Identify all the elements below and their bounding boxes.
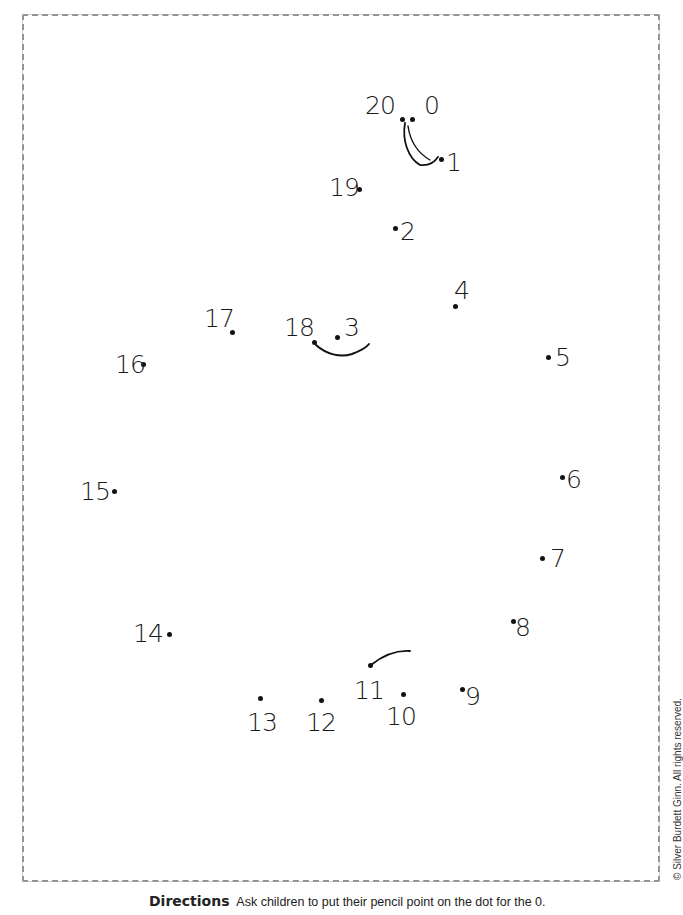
dot-11[interactable] (368, 663, 373, 668)
directions-label: Directions (149, 893, 230, 909)
dot-label-17: 17 (204, 306, 234, 331)
dot-label-5: 5 (555, 345, 570, 370)
copyright-notice: © Silver Burdett Ginn. All rights reserv… (672, 698, 683, 880)
dot-2[interactable] (393, 226, 398, 231)
dot-label-1: 1 (446, 150, 461, 175)
dot-0[interactable] (410, 117, 415, 122)
guide-strokes (0, 0, 683, 915)
dot-10[interactable] (401, 692, 406, 697)
dot-6[interactable] (560, 475, 565, 480)
dot-13[interactable] (258, 696, 263, 701)
dot-12[interactable] (319, 698, 324, 703)
chin-curve-stroke (371, 651, 410, 665)
dot-3[interactable] (335, 335, 340, 340)
ear-curve-stroke (404, 123, 438, 165)
directions: Directions Ask children to put their pen… (149, 893, 546, 909)
dot-5[interactable] (546, 355, 551, 360)
dot-label-12: 12 (306, 710, 336, 735)
dot-label-14: 14 (133, 621, 163, 646)
dot-1[interactable] (439, 157, 444, 162)
directions-text: Ask children to put their pencil point o… (236, 895, 545, 909)
dot-14[interactable] (167, 632, 172, 637)
dot-label-18: 18 (284, 315, 314, 340)
dot-label-20: 20 (365, 93, 395, 118)
dot-label-9: 9 (465, 684, 480, 709)
dot-label-0: 0 (424, 93, 439, 118)
dot-label-3: 3 (344, 315, 359, 340)
dot-20[interactable] (400, 117, 405, 122)
dot-label-7: 7 (550, 546, 565, 571)
ear-curve-inner-stroke (408, 126, 430, 160)
dot-9[interactable] (460, 687, 465, 692)
dot-label-16: 16 (115, 352, 145, 377)
dot-label-2: 2 (400, 219, 415, 244)
dot-label-4: 4 (454, 278, 469, 303)
dot-label-11: 11 (354, 678, 384, 703)
dot-label-10: 10 (386, 704, 416, 729)
dot-label-19: 19 (329, 175, 359, 200)
dot-label-8: 8 (515, 615, 530, 640)
dot-label-15: 15 (80, 479, 110, 504)
dot-label-6: 6 (566, 467, 581, 492)
dot-15[interactable] (112, 489, 117, 494)
dot-7[interactable] (540, 556, 545, 561)
dot-label-13: 13 (247, 710, 277, 735)
mouth-curve-stroke (316, 344, 369, 356)
